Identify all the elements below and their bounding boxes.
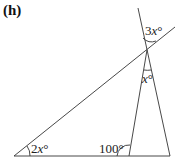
angle-label-2x: 2x° [31,142,48,155]
angle-label-x: x° [142,72,153,85]
diagonal-line [14,27,175,156]
inner-leg-line [129,50,147,156]
arc-2x [27,146,30,156]
angle-label-3x: 3x° [145,24,162,37]
angle-label-100: 100° [99,142,124,155]
